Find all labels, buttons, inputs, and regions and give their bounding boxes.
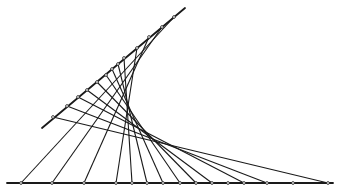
anchor-point bbox=[96, 81, 99, 84]
anchor-point bbox=[227, 182, 230, 185]
anchor-point bbox=[266, 182, 269, 185]
anchor-point bbox=[111, 68, 114, 71]
string-line bbox=[84, 37, 149, 183]
anchor-point bbox=[211, 182, 214, 185]
anchor-point bbox=[243, 182, 246, 185]
anchor-point bbox=[66, 105, 69, 108]
anchor-point bbox=[292, 182, 295, 185]
string-line bbox=[53, 117, 328, 183]
anchor-point bbox=[173, 16, 176, 19]
anchor-point bbox=[162, 182, 165, 185]
anchor-point bbox=[83, 182, 86, 185]
string-line bbox=[87, 90, 212, 183]
anchor-point bbox=[20, 182, 23, 185]
anchor-point bbox=[117, 63, 120, 66]
anchor-point bbox=[123, 57, 126, 60]
anchor-point bbox=[136, 47, 139, 50]
anchor-point bbox=[179, 182, 182, 185]
anchor-point bbox=[86, 89, 89, 92]
anchor-point bbox=[51, 182, 54, 185]
envelope-diagram bbox=[0, 0, 337, 194]
anchor-point bbox=[105, 74, 108, 77]
anchor-point bbox=[161, 26, 164, 29]
anchor-point bbox=[195, 182, 198, 185]
anchor-point bbox=[52, 116, 55, 119]
connecting-lines bbox=[21, 17, 328, 183]
anchor-points bbox=[20, 16, 330, 185]
anchor-point bbox=[77, 96, 80, 99]
anchor-point bbox=[131, 182, 134, 185]
anchor-point bbox=[327, 182, 330, 185]
diagram-svg bbox=[0, 0, 337, 194]
anchor-point bbox=[115, 182, 118, 185]
anchor-point bbox=[148, 36, 151, 39]
anchor-point bbox=[146, 182, 149, 185]
